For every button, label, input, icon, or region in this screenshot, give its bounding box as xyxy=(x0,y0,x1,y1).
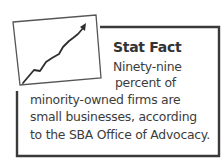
callout-body-line: to the SBA Office of Advocacy. xyxy=(30,126,210,143)
callout-body-line: minority-owned firms are xyxy=(30,91,180,108)
callout-body-line: percent of xyxy=(115,74,176,91)
stat-fact-callout: Stat Fact Ninety-nine percent of minorit… xyxy=(0,0,223,161)
callout-body-line: small businesses, according xyxy=(30,108,197,125)
callout-body-line: Ninety-nine xyxy=(113,58,182,75)
callout-title: Stat Fact xyxy=(113,39,181,56)
